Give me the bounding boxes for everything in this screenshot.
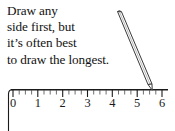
tick-label-4: 4 — [105, 96, 119, 110]
number-line-figure: Draw any side first, but it’s often best… — [0, 0, 175, 131]
tick-label-2: 2 — [56, 96, 70, 110]
tick-label-6: 6 — [155, 96, 169, 110]
ruler-graphic — [0, 0, 175, 131]
tick-label-5: 5 — [130, 96, 144, 110]
tick-label-0: 0 — [6, 96, 20, 110]
tick-label-3: 3 — [81, 96, 95, 110]
pencil-icon — [118, 11, 153, 91]
pencil-crease — [119, 12, 150, 85]
tick-label-1: 1 — [31, 96, 45, 110]
